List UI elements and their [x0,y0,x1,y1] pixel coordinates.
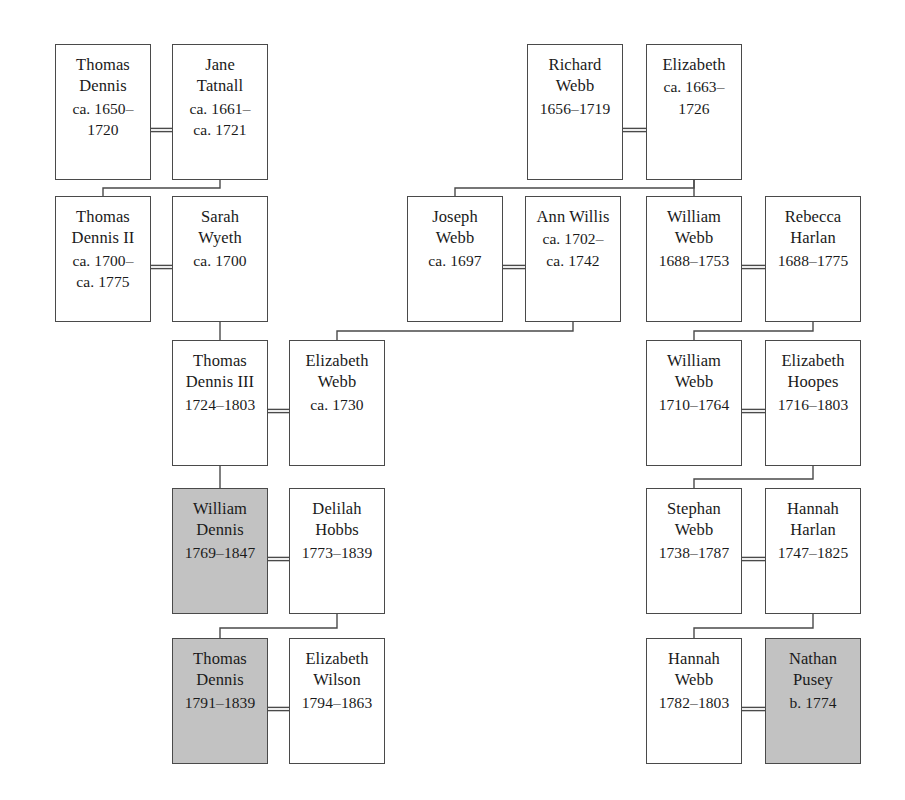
person-dates-line: 1720 [56,120,150,140]
descent-connector [103,180,220,196]
person-name-line: Jane [173,54,267,75]
person-box-thomas-dennis-iii[interactable]: ThomasDennis III1724–1803 [172,340,268,466]
person-name-line: Dennis II [56,227,150,248]
person-dates-line: 1726 [647,99,741,119]
person-name-line: Joseph [408,206,502,227]
person-dates-line: 1656–1719 [528,99,622,119]
person-name-line: Harlan [766,519,860,540]
person-box-thomas-dennis-1791[interactable]: ThomasDennis1791–1839 [172,638,268,764]
person-name-line: Elizabeth [766,350,860,371]
person-box-william-webb-1688[interactable]: WilliamWebb1688–1753 [646,196,742,322]
person-box-elizabeth-webb[interactable]: ElizabethWebbca. 1730 [289,340,385,466]
person-name-line: Elizabeth [290,350,384,371]
person-box-william-webb-1710[interactable]: WilliamWebb1710–1764 [646,340,742,466]
person-box-nathan-pusey[interactable]: NathanPuseyb. 1774 [765,638,861,764]
descent-connector [694,322,813,340]
person-name-line: Webb [647,371,741,392]
person-box-william-dennis[interactable]: WilliamDennis1769–1847 [172,488,268,614]
person-name-line: Ann Willis [526,206,620,227]
person-name-line: Webb [647,669,741,690]
person-box-thomas-dennis-ii[interactable]: ThomasDennis IIca. 1700–ca. 1775 [55,196,151,322]
person-dates-line: 1794–1863 [290,693,384,713]
person-name-line: Dennis [173,669,267,690]
person-box-thomas-dennis[interactable]: ThomasDennisca. 1650–1720 [55,44,151,180]
person-name-line: Webb [290,371,384,392]
person-dates-line: 1738–1787 [647,543,741,563]
person-name-line: Delilah [290,498,384,519]
person-box-delilah-hobbs[interactable]: DelilahHobbs1773–1839 [289,488,385,614]
person-box-rebecca-harlan[interactable]: RebeccaHarlan1688–1775 [765,196,861,322]
person-name-line: Rebecca [766,206,860,227]
descent-connector [220,614,337,638]
person-name-line: Hannah [766,498,860,519]
person-dates-line: ca. 1697 [408,251,502,271]
person-name-line: Wilson [290,669,384,690]
person-dates-line: 1782–1803 [647,693,741,713]
person-dates-line: ca. 1702– [526,229,620,249]
person-name-line: Thomas [56,206,150,227]
descent-connector [694,466,813,488]
person-dates-line: 1724–1803 [173,395,267,415]
person-name-line: Dennis [56,75,150,96]
person-name-line: Nathan [766,648,860,669]
descent-connector [337,322,573,340]
person-dates-line: 1710–1764 [647,395,741,415]
person-name-line: Elizabeth [290,648,384,669]
person-dates-line: ca. 1775 [56,272,150,292]
person-box-elizabeth-wilson[interactable]: ElizabethWilson1794–1863 [289,638,385,764]
person-name-line: Tatnall [173,75,267,96]
person-name-line: Sarah [173,206,267,227]
person-dates-line: ca. 1650– [56,99,150,119]
person-name-line: Dennis III [173,371,267,392]
person-dates-line: 1688–1753 [647,251,741,271]
person-name-line: Wyeth [173,227,267,248]
person-name-line: Webb [528,75,622,96]
person-dates-line: 1716–1803 [766,395,860,415]
person-box-ann-willis[interactable]: Ann Willisca. 1702–ca. 1742 [525,196,621,322]
person-name-line: William [647,350,741,371]
person-dates-line: 1773–1839 [290,543,384,563]
person-name-line: Thomas [56,54,150,75]
person-dates-line: 1688–1775 [766,251,860,271]
person-name-line: Webb [408,227,502,248]
person-box-hannah-webb[interactable]: HannahWebb1782–1803 [646,638,742,764]
person-box-richard-webb[interactable]: RichardWebb1656–1719 [527,44,623,180]
person-dates-line: ca. 1661– [173,99,267,119]
person-box-joseph-webb[interactable]: JosephWebbca. 1697 [407,196,503,322]
person-name-line: Webb [647,519,741,540]
person-name-line: Webb [647,227,741,248]
person-dates-line: 1791–1839 [173,693,267,713]
person-name-line: Stephan [647,498,741,519]
person-dates-line: ca. 1700 [173,251,267,271]
person-name-line: Pusey [766,669,860,690]
person-name-line: Elizabeth [647,54,741,75]
person-dates-line: 1747–1825 [766,543,860,563]
person-name-line: Harlan [766,227,860,248]
person-box-sarah-wyeth[interactable]: SarahWyethca. 1700 [172,196,268,322]
person-name-line: Hannah [647,648,741,669]
descent-connector [694,614,813,638]
person-dates-line: ca. 1700– [56,251,150,271]
descent-connector [455,180,694,196]
person-dates-line: ca. 1721 [173,120,267,140]
person-box-elizabeth[interactable]: Elizabethca. 1663–1726 [646,44,742,180]
person-dates-line: ca. 1742 [526,251,620,271]
person-name-line: Thomas [173,648,267,669]
family-tree-diagram: ThomasDennisca. 1650–1720JaneTatnallca. … [0,0,905,800]
person-box-elizabeth-hoopes[interactable]: ElizabethHoopes1716–1803 [765,340,861,466]
person-name-line: Dennis [173,519,267,540]
person-name-line: Hoopes [766,371,860,392]
person-box-stephan-webb[interactable]: StephanWebb1738–1787 [646,488,742,614]
person-dates-line: 1769–1847 [173,543,267,563]
person-name-line: Hobbs [290,519,384,540]
person-name-line: Thomas [173,350,267,371]
person-name-line: William [173,498,267,519]
person-dates-line: b. 1774 [766,693,860,713]
person-dates-line: ca. 1730 [290,395,384,415]
person-dates-line: ca. 1663– [647,77,741,97]
person-name-line: Richard [528,54,622,75]
person-box-hannah-harlan[interactable]: HannahHarlan1747–1825 [765,488,861,614]
person-name-line: William [647,206,741,227]
person-box-jane-tatnall[interactable]: JaneTatnallca. 1661–ca. 1721 [172,44,268,180]
